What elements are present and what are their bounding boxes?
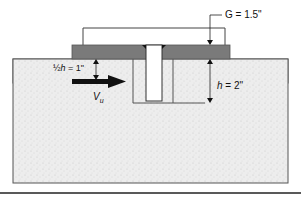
grout-outline [83,28,225,45]
shear-label: Vu [93,92,104,104]
diagram-canvas [0,0,301,198]
half-h-label: ½h = 1" [53,64,84,73]
anchor-rod [146,45,162,101]
shear-arrow-shaft [72,79,110,84]
shear-var: V [93,91,100,102]
gap-label-text: G = 1.5" [225,9,262,20]
embed-depth-label: h = 2" [217,81,243,91]
half-h-prefix: ½ [53,63,61,73]
gap-arrowhead [207,40,213,45]
shear-sub: u [100,97,104,104]
embed-depth-value: = 2" [223,80,244,91]
gap-label: G = 1.5" [225,10,262,20]
half-h-value: = 1" [66,63,84,73]
